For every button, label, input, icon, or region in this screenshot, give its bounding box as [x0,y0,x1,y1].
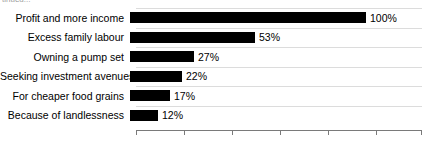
value-label: 22% [186,70,207,82]
axis-tick [184,130,185,135]
table-row: Because of landlessness 12% [0,106,426,126]
table-row: Owning a pump set 27% [0,47,426,67]
bar [130,51,194,62]
value-label: 12% [162,109,183,121]
bar [130,90,170,101]
bar [130,12,366,23]
x-axis [0,130,426,142]
bar-track: 100% [130,8,426,28]
bar-track: 27% [130,47,426,67]
category-label: For cheaper food grains [0,90,130,102]
table-row: Profit and more income 100% [0,8,426,28]
category-label: Owning a pump set [0,51,130,63]
bar [130,71,182,82]
category-label: Because of landlessness [0,109,130,121]
category-label: Excess family labour [0,31,130,43]
axis-tick [421,130,422,135]
bar-track: 53% [130,28,426,48]
bar [130,110,158,121]
value-label: 53% [259,31,280,43]
category-label: Profit and more income [0,12,130,24]
value-label: 27% [198,51,219,63]
table-row: Excess family labour 53% [0,28,426,48]
table-row: For cheaper food grains 17% [0,86,426,106]
bar-track: 17% [130,86,426,106]
table-row: Seeking investment avenues 22% [0,67,426,87]
clipped-header-text: tinued... [2,0,122,2]
plot-area: Profit and more income 100% Excess famil… [0,8,426,126]
bar-track: 22% [130,67,426,87]
axis-tick [232,130,233,135]
axis-tick [376,130,377,135]
axis-tick [136,130,137,135]
category-label: Seeking investment avenues [0,70,130,82]
axis-line [136,130,422,131]
horizontal-bar-chart: tinued... Profit and more income 100% Ex… [0,0,426,146]
axis-tick [328,130,329,135]
value-label: 100% [370,12,397,24]
axis-tick [280,130,281,135]
bar [130,32,255,43]
bar-track: 12% [130,106,426,126]
value-label: 17% [174,90,195,102]
